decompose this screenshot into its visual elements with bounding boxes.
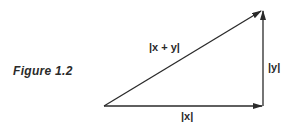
- vector-x-label: |x|: [181, 110, 193, 122]
- vector-y-label: |y|: [268, 61, 280, 73]
- vector-triangle-diagram: [0, 0, 293, 124]
- vector-x-plus-y-label: |x + y|: [149, 41, 180, 53]
- vector-x-plus-y-arrow: [104, 11, 261, 106]
